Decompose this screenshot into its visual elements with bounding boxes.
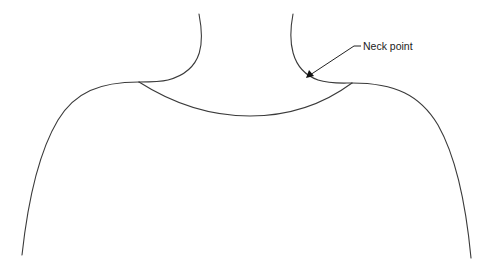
- neck-point-annotation: Neck point: [306, 40, 413, 78]
- left-neck-curve: [139, 14, 202, 82]
- leader-line: [310, 46, 361, 75]
- left-shoulder-line: [22, 82, 139, 255]
- neck-point-label: Neck point: [363, 40, 413, 52]
- bodice-diagram: Neck point: [0, 0, 491, 271]
- front-neckline: [139, 82, 352, 116]
- right-shoulder-line: [352, 83, 471, 258]
- right-neck-curve: [291, 14, 352, 83]
